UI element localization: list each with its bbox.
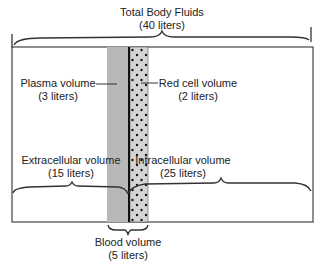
total-fluids-value: (40 liters) (112, 19, 212, 32)
intracellular-title: Intracellular volume (130, 154, 236, 167)
extracellular-title: Extracellular volume (16, 154, 126, 167)
red-cell-label: Red cell volume (2 liters) (158, 77, 238, 103)
plasma-bar (107, 47, 128, 222)
blood-volume-title: Blood volume (88, 236, 168, 249)
blood-volume-label: Blood volume (5 liters) (88, 236, 168, 261)
red-cell-bar (130, 47, 148, 222)
extracellular-label: Extracellular volume (15 liters) (16, 154, 126, 180)
red-cell-title: Red cell volume (158, 77, 238, 90)
compartment-brace (13, 178, 311, 194)
fluid-box (12, 47, 313, 222)
total-fluids-title: Total Body Fluids (112, 6, 212, 19)
blood-volume-value: (5 liters) (88, 249, 168, 261)
body-fluid-diagram (0, 0, 324, 261)
red-cell-value: (2 liters) (158, 90, 238, 103)
plasma-label: Plasma volume (3 liters) (20, 77, 96, 103)
plasma-title: Plasma volume (20, 77, 96, 90)
intracellular-value: (25 liters) (130, 167, 236, 180)
intracellular-label: Intracellular volume (25 liters) (130, 154, 236, 180)
extracellular-value: (15 liters) (16, 167, 126, 180)
plasma-value: (3 liters) (20, 90, 96, 103)
blood-brace (108, 225, 148, 235)
total-fluids-label: Total Body Fluids (40 liters) (112, 6, 212, 32)
